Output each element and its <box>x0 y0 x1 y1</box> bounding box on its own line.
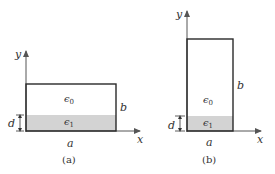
x-axis-label-a: x <box>137 133 144 146</box>
width-label-b: a <box>206 136 213 149</box>
caption-b: (b) <box>202 154 216 165</box>
layer-label-a: d <box>8 117 15 130</box>
epsilon0-label-a: ϵ0 <box>64 93 74 106</box>
y-axis-label-b: y <box>175 8 183 21</box>
layer-label-b: d <box>168 119 175 132</box>
y-axis-label-a: y <box>14 48 22 61</box>
height-label-a: b <box>120 101 127 114</box>
x-axis-label-b: x <box>257 133 264 146</box>
diagram-canvas: y x b d a ϵ0 ϵ1 (a) y x b d a ϵ0 ϵ1 (b) <box>0 0 275 174</box>
width-label-a: a <box>67 137 74 150</box>
caption-a: (a) <box>62 154 76 165</box>
panel-a: y x b d a ϵ0 ϵ1 (a) <box>8 48 144 165</box>
panel-b: y x b d a ϵ0 ϵ1 (b) <box>168 8 264 165</box>
height-label-b: b <box>237 79 244 92</box>
epsilon0-label-b: ϵ0 <box>203 94 213 107</box>
